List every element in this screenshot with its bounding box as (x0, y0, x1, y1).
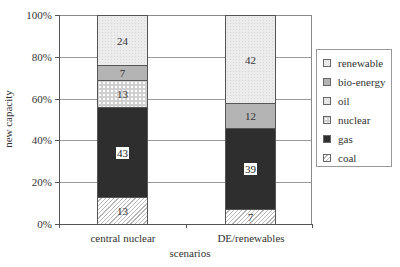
segment-bio-energy: 7 (97, 65, 148, 81)
segment-coal: 13 (97, 197, 148, 225)
legend-label: bio-energy (338, 76, 385, 88)
segment-renewable: 42 (225, 15, 276, 104)
y-tick-label: 100% (10, 10, 52, 21)
legend-label: nuclear (338, 114, 370, 126)
gas-swatch-icon (323, 135, 331, 143)
legend-label: coal (338, 152, 356, 164)
bio-energy-swatch-icon (323, 78, 331, 86)
value-label: 43 (116, 147, 129, 159)
y-tick (55, 182, 59, 183)
legend-label: gas (338, 133, 353, 145)
legend-item-bio-energy: bio-energy (323, 75, 385, 89)
segment-coal: 7 (225, 209, 276, 225)
segment-bio-energy: 12 (225, 103, 276, 129)
legend-label: oil (338, 95, 350, 107)
segment-gas: 43 (97, 107, 148, 198)
value-label: 13 (116, 88, 129, 100)
y-axis (59, 15, 60, 225)
renewable-swatch-icon (323, 59, 331, 67)
value-label: 24 (116, 35, 129, 47)
oil-swatch-icon (323, 97, 331, 105)
y-tick (55, 15, 59, 16)
value-label: 12 (244, 110, 257, 122)
x-tick-label: DE/renewables (191, 232, 311, 244)
y-tick-label: 20% (10, 177, 52, 188)
legend-label: renewable (338, 57, 383, 69)
y-tick-label: 0% (10, 219, 52, 230)
value-label: 39 (244, 163, 257, 175)
value-label: 13 (116, 205, 129, 217)
segment-renewable: 24 (97, 15, 148, 66)
y-tick-label: 80% (10, 52, 52, 63)
x-tick (312, 224, 313, 228)
x-axis-title: scenarios (150, 247, 230, 259)
x-tick (186, 224, 187, 228)
y-tick-label: 40% (10, 135, 52, 146)
y-tick (55, 140, 59, 141)
legend-item-gas: gas (323, 132, 353, 146)
y-tick-label: 60% (10, 94, 52, 105)
legend-item-nuclear: nuclear (323, 113, 370, 127)
value-label: 7 (119, 67, 127, 79)
segment-nuclear: 13 (97, 80, 148, 108)
x-tick (59, 224, 60, 228)
y-axis-title: new capacity (2, 89, 14, 149)
legend-item-renewable: renewable (323, 56, 383, 70)
legend-item-coal: coal (323, 151, 356, 165)
value-label: 7 (247, 211, 255, 223)
segment-gas: 39 (225, 128, 276, 210)
y-tick (55, 99, 59, 100)
nuclear-swatch-icon (323, 116, 331, 124)
y-tick (55, 57, 59, 58)
legend-item-oil: oil (323, 94, 350, 108)
x-tick-label: central nuclear (63, 232, 183, 244)
legend: renewable bio-energy oil nuclear gas coa… (316, 49, 392, 167)
coal-swatch-icon (323, 154, 331, 162)
value-label: 42 (244, 54, 257, 66)
